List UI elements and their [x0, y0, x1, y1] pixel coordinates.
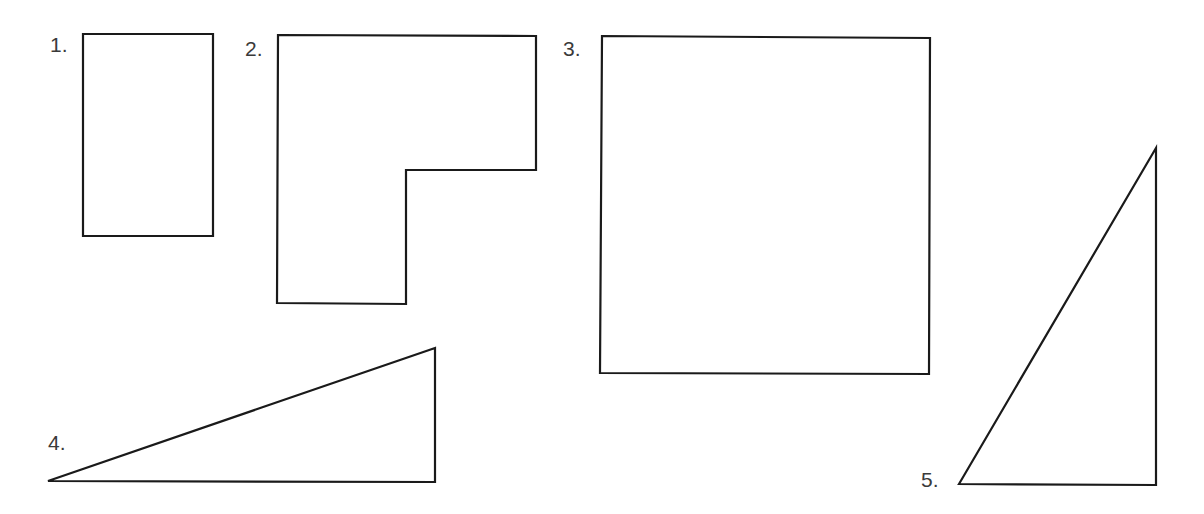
shape-1-rectangle	[83, 34, 213, 236]
shape-5-label: 5.	[921, 469, 939, 490]
shape-2-l-shape	[277, 35, 536, 304]
shape-4-label: 4.	[48, 432, 66, 453]
shape-1-label: 1.	[50, 34, 68, 55]
shape-3-square	[600, 36, 930, 374]
shape-2-label: 2.	[245, 38, 263, 59]
shape-3-label: 3.	[563, 38, 581, 59]
shape-5-right-triangle	[959, 148, 1156, 485]
shape-4-right-triangle	[48, 348, 435, 482]
shapes-canvas	[0, 0, 1204, 514]
